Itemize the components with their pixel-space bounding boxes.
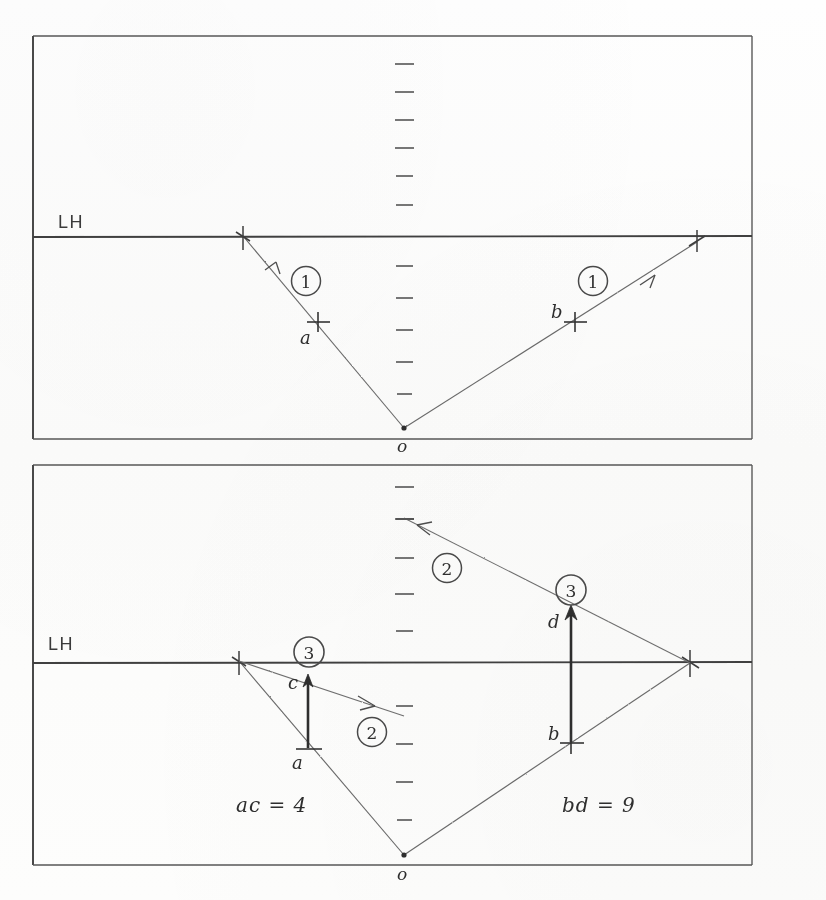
top-ray-left-arrowhead <box>265 262 280 274</box>
top-badge-ray-one-right: 1 <box>579 267 608 296</box>
bottom-vector-ac <box>303 674 313 748</box>
bottom-point-c: c <box>288 672 298 693</box>
bottom-lh-line <box>33 662 752 663</box>
top-ray-left-endpoint-cross <box>236 226 250 250</box>
bottom-badge-ray-two-left: 2 <box>358 718 387 747</box>
top-origin: o <box>397 425 407 456</box>
bottom-badge-two-left-text: 2 <box>367 723 378 743</box>
equation-ac: ac = 4 <box>236 793 307 817</box>
top-point-b-label: b <box>551 301 563 322</box>
top-ray-left <box>243 236 404 428</box>
bottom-point-c-label: c <box>288 672 298 693</box>
bottom-badge-ray-two-right: 2 <box>433 554 462 583</box>
top-ray-right-endpoint-cross <box>689 230 705 252</box>
bottom-panel-frame <box>33 465 752 865</box>
bottom-point-d-label: d <box>548 611 560 632</box>
top-badge-ray-one-left: 1 <box>292 267 321 296</box>
bottom-origin-label: o <box>397 864 407 884</box>
bottom-ray-origin-right <box>404 663 690 855</box>
bottom-ray-two-right <box>404 518 690 663</box>
bottom-origin: o <box>397 852 407 884</box>
top-lh-label: LH <box>58 212 84 232</box>
bottom-point-b-label: b <box>548 723 560 744</box>
bottom-right-endpoint-cross <box>682 650 699 677</box>
bottom-vector-bd <box>565 605 577 742</box>
top-badge-right-text: 1 <box>588 272 599 292</box>
bottom-badge-ray-three-left: 3 <box>294 637 324 667</box>
bottom-ray-origin-left <box>239 661 404 855</box>
bottom-point-a-label: a <box>292 752 303 773</box>
bottom-point-d: d <box>548 611 560 632</box>
bottom-ray-two-left <box>239 661 404 716</box>
bottom-badge-three-left-text: 3 <box>304 643 315 663</box>
bottom-badge-two-right-text: 2 <box>442 559 453 579</box>
diagram-sheet: LH 1 <box>0 0 826 900</box>
bottom-point-b: b <box>548 723 584 754</box>
top-panel: LH 1 <box>33 36 752 456</box>
top-origin-label: o <box>397 436 407 456</box>
top-lh-line <box>33 236 752 237</box>
diagram-canvas: LH 1 <box>0 0 826 900</box>
top-badge-left-text: 1 <box>301 272 312 292</box>
bottom-badge-ray-three-right: 3 <box>556 575 586 605</box>
top-point-a-label: a <box>300 327 311 348</box>
top-point-b: b <box>551 301 587 332</box>
bottom-badge-three-right-text: 3 <box>566 581 577 601</box>
bottom-panel: LH <box>33 465 752 884</box>
bottom-lh-label: LH <box>48 634 74 654</box>
top-point-a: a <box>300 312 330 348</box>
equation-bd: bd = 9 <box>562 793 636 817</box>
top-ray-right <box>404 242 697 428</box>
